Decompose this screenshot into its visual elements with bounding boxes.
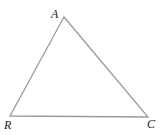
triangle-diagram: A R C <box>0 0 161 135</box>
vertex-label-c: C <box>147 117 156 131</box>
triangle-ARC <box>10 17 148 117</box>
vertex-label-r: R <box>3 118 12 132</box>
vertex-label-a: A <box>50 7 59 21</box>
